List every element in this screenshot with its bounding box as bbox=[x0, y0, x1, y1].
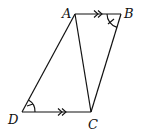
vertex-label-b: B bbox=[123, 6, 134, 21]
diagonal-ac bbox=[75, 14, 91, 112]
segment-bc bbox=[91, 14, 121, 112]
quadrilateral-diagram: A B C D bbox=[0, 0, 143, 136]
vertex-label-c: C bbox=[88, 117, 98, 132]
vertex-label-a: A bbox=[61, 6, 71, 21]
vertex-label-d: D bbox=[7, 112, 19, 127]
angle-mark-b-icon bbox=[107, 14, 117, 27]
angle-mark-d-icon bbox=[27, 100, 35, 112]
segment-da bbox=[22, 14, 75, 112]
